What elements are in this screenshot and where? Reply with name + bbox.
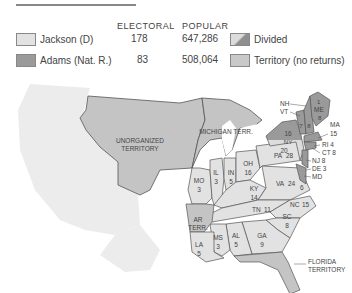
jackson-label: Jackson (D) — [40, 34, 93, 45]
svg-text:6: 6 — [300, 184, 304, 191]
svg-text:FLORIDA: FLORIDA — [308, 258, 337, 265]
svg-text:3: 3 — [214, 178, 218, 185]
svg-text:AL: AL — [232, 232, 240, 239]
svg-text:MA: MA — [330, 121, 340, 128]
jackson-swatch — [16, 33, 36, 46]
svg-text:3: 3 — [197, 186, 201, 193]
svg-text:ME: ME — [314, 106, 324, 113]
svg-text:15: 15 — [302, 201, 310, 208]
divided-label: Divided — [254, 34, 287, 45]
jackson-popular: 647,286 — [182, 33, 218, 44]
adams-swatch — [16, 54, 36, 67]
legend-row-territory: Territory (no returns) — [230, 53, 345, 67]
legend-row-adams: Adams (Nat. R.) — [16, 53, 112, 67]
svg-text:UNORGANIZED: UNORGANIZED — [116, 137, 164, 144]
svg-text:TN: TN — [252, 206, 261, 213]
svg-text:NH: NH — [280, 100, 290, 107]
svg-text:SC: SC — [282, 213, 291, 220]
svg-text:VA: VA — [276, 180, 285, 187]
state-nj — [302, 150, 308, 168]
legend-row-jackson: Jackson (D) — [16, 32, 93, 46]
territory-swatch — [230, 54, 250, 67]
svg-text:24: 24 — [288, 180, 296, 187]
svg-text:RI 4: RI 4 — [322, 141, 334, 148]
svg-text:3: 3 — [216, 243, 220, 250]
divider — [16, 4, 136, 6]
svg-text:5: 5 — [197, 250, 201, 257]
svg-text:15: 15 — [330, 130, 338, 137]
adams-label: Adams (Nat. R.) — [40, 55, 112, 66]
svg-text:16: 16 — [284, 130, 292, 137]
svg-text:GA: GA — [257, 232, 267, 239]
svg-text:NJ 8: NJ 8 — [312, 157, 326, 164]
svg-text:AR: AR — [193, 216, 202, 223]
florida-territory — [234, 252, 300, 293]
svg-text:8: 8 — [285, 222, 289, 229]
svg-text:TERR.: TERR. — [188, 224, 208, 231]
popular-header: POPULAR — [182, 21, 229, 31]
svg-text:9: 9 — [260, 241, 264, 248]
legend-row-divided: Divided — [230, 32, 287, 46]
svg-text:IL: IL — [213, 169, 219, 176]
electoral-header: ELECTORAL — [117, 21, 175, 31]
svg-text:NY: NY — [284, 139, 292, 145]
jackson-electoral: 178 — [131, 33, 148, 44]
svg-text:DE 3: DE 3 — [312, 165, 327, 172]
svg-text:CT 8: CT 8 — [322, 149, 336, 156]
svg-text:MS: MS — [213, 234, 223, 241]
svg-text:NC: NC — [290, 201, 300, 208]
svg-text:5: 5 — [234, 241, 238, 248]
adams-popular: 508,064 — [182, 54, 218, 65]
svg-text:14: 14 — [250, 194, 258, 201]
svg-text:16: 16 — [244, 169, 252, 176]
svg-text:MICHIGAN TERR.: MICHIGAN TERR. — [199, 128, 253, 135]
svg-text:IN: IN — [228, 169, 235, 176]
svg-text:LA: LA — [195, 241, 204, 248]
election-map: UNORGANIZED TERRITORY MICHIGAN TERR. MO … — [0, 80, 352, 293]
svg-text:TERRITORY: TERRITORY — [121, 145, 159, 152]
svg-text:VT: VT — [280, 108, 288, 115]
svg-text:MD: MD — [312, 173, 322, 180]
territory-label: Territory (no returns) — [254, 55, 345, 66]
svg-text:KY: KY — [250, 185, 259, 192]
legend: ELECTORAL POPULAR Jackson (D) 178 647,28… — [0, 0, 352, 80]
svg-text:OH: OH — [243, 160, 253, 167]
svg-text:MO: MO — [194, 177, 204, 184]
adams-electoral: 83 — [137, 54, 148, 65]
divided-swatch — [230, 33, 250, 46]
svg-text:11: 11 — [264, 206, 271, 213]
svg-text:TERRITORY: TERRITORY — [308, 266, 346, 273]
svg-text:20: 20 — [280, 147, 288, 154]
svg-text:5: 5 — [229, 178, 233, 185]
